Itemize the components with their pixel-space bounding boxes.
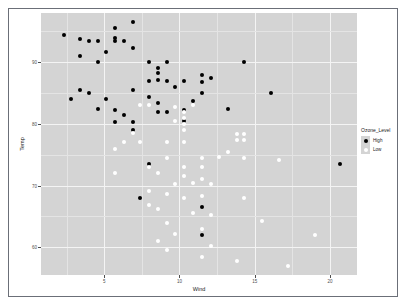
data-point [131, 20, 135, 24]
x-axis-title: Wind [41, 286, 357, 292]
data-point [122, 39, 126, 43]
data-point [62, 33, 66, 37]
gridline [41, 216, 357, 217]
legend-swatch [361, 145, 370, 154]
data-point [182, 196, 186, 200]
legend-label: High [373, 138, 382, 143]
data-point [156, 110, 160, 114]
gridline [41, 247, 357, 248]
data-point [182, 116, 186, 120]
x-tick-label: 15 [252, 279, 257, 284]
data-point [131, 131, 135, 135]
data-point [242, 156, 246, 160]
data-point [147, 189, 151, 193]
data-point [200, 80, 204, 84]
data-point [165, 248, 169, 252]
data-point [165, 156, 169, 160]
data-point [200, 156, 204, 160]
legend-point-icon [364, 148, 368, 152]
data-point [113, 26, 117, 30]
data-point [191, 99, 195, 103]
gridline [142, 13, 143, 275]
data-point [122, 140, 126, 144]
gridline [41, 62, 357, 63]
data-point [156, 71, 160, 75]
data-point [226, 150, 230, 154]
data-point [156, 66, 160, 70]
data-point [113, 147, 117, 151]
plot-panel [41, 13, 357, 275]
data-point [173, 85, 177, 89]
data-point [338, 162, 342, 166]
legend-point-icon [364, 139, 368, 143]
gridline [179, 13, 180, 275]
data-point [113, 39, 117, 43]
y-tick-label: 70 [21, 183, 37, 188]
data-point [209, 213, 213, 217]
data-point [173, 232, 177, 236]
x-tick-mark [104, 275, 105, 278]
data-point [69, 97, 73, 101]
y-tick-label: 80 [21, 121, 37, 126]
data-point [242, 132, 246, 136]
data-point [165, 60, 169, 64]
data-point [235, 132, 239, 136]
data-point [165, 110, 169, 114]
x-tick-mark [330, 275, 331, 278]
data-point [131, 88, 135, 92]
gridline [41, 124, 357, 125]
data-point [313, 233, 317, 237]
data-point [131, 46, 135, 50]
data-point [165, 79, 169, 83]
data-point [242, 60, 246, 64]
data-point [96, 107, 100, 111]
data-point [147, 203, 151, 207]
data-point [217, 155, 221, 159]
data-point [156, 101, 160, 105]
y-tick-label: 90 [21, 60, 37, 65]
data-point [96, 39, 100, 43]
data-point [260, 219, 264, 223]
data-point [131, 120, 135, 124]
data-point [113, 108, 117, 112]
data-point [87, 39, 91, 43]
data-point [191, 181, 195, 185]
chart-figure: 5101520 90807060 Wind Temp Ozone_Level H… [8, 8, 398, 297]
data-point [182, 110, 186, 114]
data-point [182, 165, 186, 169]
y-axis-title: Temp [19, 137, 25, 150]
data-point [191, 211, 195, 215]
legend-entries: HighLow [361, 136, 390, 154]
data-point [200, 91, 204, 95]
legend-item-high: High [361, 136, 390, 145]
gridline [41, 186, 357, 187]
data-point [209, 244, 213, 248]
legend-label: Low [373, 147, 381, 152]
y-tick-mark [38, 247, 41, 248]
data-point [165, 140, 169, 144]
data-point [235, 138, 239, 142]
data-point [182, 122, 186, 126]
data-point [182, 140, 186, 144]
data-point [200, 73, 204, 77]
data-point [87, 91, 91, 95]
data-point [156, 239, 160, 243]
legend-title: Ozone_Level [361, 127, 390, 133]
data-point [147, 79, 151, 83]
data-point [165, 192, 169, 196]
data-point [209, 182, 213, 186]
data-point [200, 233, 204, 237]
data-point [78, 54, 82, 58]
data-point [191, 103, 195, 107]
data-point [165, 221, 169, 225]
data-point [182, 174, 186, 178]
data-point [113, 120, 117, 124]
y-tick-label: 60 [21, 245, 37, 250]
data-point [277, 158, 281, 162]
gridline [292, 13, 293, 275]
data-point [147, 103, 151, 107]
gridline [41, 155, 357, 156]
x-tick-label: 10 [177, 279, 182, 284]
gridline [41, 31, 357, 32]
x-tick-mark [255, 275, 256, 278]
